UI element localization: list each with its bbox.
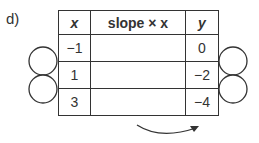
- right-difference-circle-1[interactable]: [219, 47, 247, 75]
- left-difference-circle-2[interactable]: [29, 75, 57, 103]
- annotations: [0, 0, 259, 143]
- curved-arrow-icon: [137, 125, 196, 133]
- right-difference-circle-2[interactable]: [219, 75, 247, 103]
- left-difference-circle-1[interactable]: [29, 47, 57, 75]
